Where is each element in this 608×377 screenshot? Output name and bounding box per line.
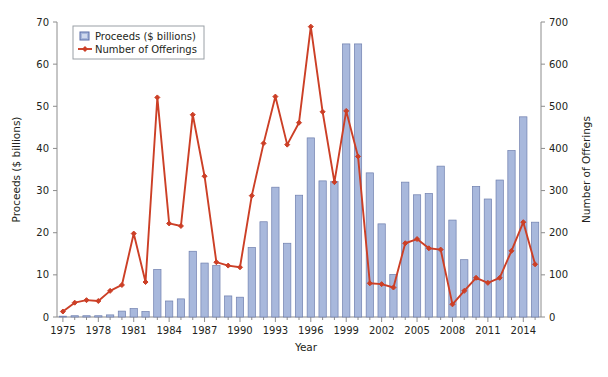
bar [189,251,196,317]
left-axis-tick-label: 50 [36,101,49,112]
x-axis-tick-label: 2014 [511,325,536,336]
bar [366,173,373,317]
right-axis-tick-label: 200 [549,227,568,238]
line-marker [214,260,219,265]
left-axis-tick-label: 30 [36,185,49,196]
bar [496,180,503,317]
legend-label-offerings: Number of Offerings [95,44,197,55]
right-axis-tick-label: 400 [549,143,568,154]
x-axis-tick-label: 1990 [227,325,252,336]
right-axis-tick-label: 0 [549,312,555,323]
line-marker [261,141,266,146]
x-axis-tick-label: 1978 [86,325,111,336]
left-axis-tick-label: 40 [36,143,49,154]
left-axis-tick-label: 60 [36,59,49,70]
bar [118,311,125,317]
line-marker [237,265,242,270]
line-marker [320,109,325,114]
bar [531,222,538,317]
bar [59,316,66,317]
line-marker [84,298,89,303]
bar [437,166,444,317]
chart-svg: 0102030405060700100200300400500600700197… [0,0,608,377]
line-marker [202,174,207,179]
right-axis-tick-label: 600 [549,59,568,70]
bar [425,194,432,317]
x-axis-tick-label: 1984 [156,325,181,336]
bar [201,263,208,317]
bar [472,186,479,317]
bar [484,199,491,317]
x-axis-tick-label: 2011 [475,325,500,336]
line-marker [167,221,172,226]
line-marker [155,95,160,100]
right-axis-tick-label: 700 [549,17,568,28]
line-marker [226,263,231,268]
ipo-proceeds-offerings-chart: 0102030405060700100200300400500600700197… [0,0,608,377]
bar [378,224,385,317]
left-axis-tick-label: 70 [36,17,49,28]
bar [177,299,184,317]
line-marker [249,193,254,198]
bar [83,316,90,317]
left-axis-tick-label: 0 [43,312,49,323]
x-axis-tick-label: 2002 [369,325,394,336]
x-axis-tick-label: 1981 [121,325,146,336]
line-marker [308,24,313,29]
left-axis-tick-label: 10 [36,269,49,280]
bar [248,247,255,317]
line-marker [273,94,278,99]
bar [213,266,220,317]
bar [154,269,161,317]
bar [331,181,338,317]
x-axis-tick-label: 1975 [50,325,75,336]
chart-legend: Proceeds ($ billions)Number of Offerings [73,26,204,59]
bar [343,44,350,317]
x-axis-tick-label: 2008 [440,325,465,336]
line-marker [143,280,148,285]
bar [71,316,78,317]
x-axis-tick-label: 1987 [192,325,217,336]
right-axis-tick-label: 300 [549,185,568,196]
bar [225,296,232,317]
right-axis-tick-label: 500 [549,101,568,112]
bar-series [59,44,539,317]
bar [307,138,314,317]
bar [520,117,527,317]
bar [295,195,302,317]
x-axis-tick-label: 1993 [263,325,288,336]
line-marker [131,231,136,236]
y2-axis-title: Number of Offerings [580,116,592,223]
line-marker [190,112,195,117]
bar [284,243,291,317]
x-axis-tick-label: 2005 [404,325,429,336]
bar [130,309,137,317]
right-axis-tick-label: 100 [549,269,568,280]
bar [319,181,326,317]
bar [142,312,149,317]
legend-swatch-inner [82,34,87,38]
line-marker [178,223,183,228]
bar [413,195,420,317]
bar [106,315,113,317]
bar [260,222,267,317]
bar [272,187,279,317]
x-axis-title: Year [294,341,318,353]
bar [508,151,515,317]
y-axis-title: Proceeds ($ billions) [10,117,22,223]
x-axis-tick-label: 1999 [333,325,358,336]
bar [165,301,172,317]
bar [236,297,243,317]
legend-label-proceeds: Proceeds ($ billions) [95,31,196,42]
bar [95,316,102,317]
x-axis-tick-label: 1996 [298,325,323,336]
left-axis-tick-label: 20 [36,227,49,238]
